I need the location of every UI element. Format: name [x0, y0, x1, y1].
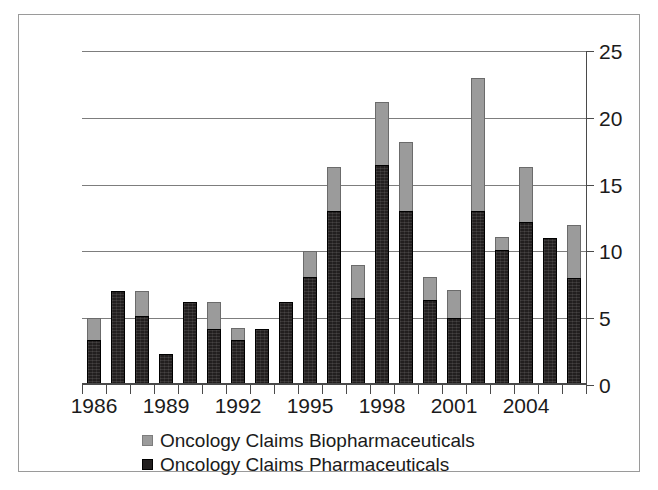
bar-segment-biopharmaceuticals [351, 265, 366, 298]
stacked-bar[interactable] [423, 277, 438, 385]
stacked-bar[interactable] [183, 302, 198, 385]
x-axis-tick [418, 385, 419, 394]
y-axis-tick [586, 51, 594, 52]
bar-segment-pharmaceuticals [135, 316, 150, 385]
bar-segment-biopharmaceuticals [231, 328, 246, 340]
bar-segment-pharmaceuticals [351, 298, 366, 385]
legend-label-biopharmaceuticals: Oncology Claims Biopharmaceuticals [160, 430, 475, 451]
bar-segment-biopharmaceuticals [135, 291, 150, 315]
bar-segment-pharmaceuticals [375, 165, 390, 385]
y-axis-label: 15 [599, 174, 622, 195]
bar-segment-pharmaceuticals [399, 211, 414, 385]
bar-segment-biopharmaceuticals [375, 102, 390, 165]
stacked-bar[interactable] [255, 329, 270, 385]
bar-segment-pharmaceuticals [111, 291, 126, 385]
bar-segment-biopharmaceuticals [87, 318, 102, 339]
x-axis-tick [274, 385, 275, 394]
bar-slot [442, 51, 466, 385]
x-axis-tick [346, 385, 347, 394]
x-axis-tick [202, 385, 203, 394]
x-axis-tick [514, 385, 515, 394]
bar-segment-biopharmaceuticals [303, 251, 318, 276]
stacked-bar[interactable] [351, 265, 366, 385]
stacked-bar[interactable] [399, 142, 414, 385]
bar-segment-biopharmaceuticals [327, 167, 342, 211]
bar-slot [322, 51, 346, 385]
x-axis-label: 1992 [215, 394, 262, 418]
stacked-bar[interactable] [87, 318, 102, 385]
bar-segment-pharmaceuticals [447, 318, 462, 385]
stacked-bar[interactable] [495, 237, 510, 385]
bar-slot [130, 51, 154, 385]
bar-slot [250, 51, 274, 385]
x-axis-tick [106, 385, 107, 394]
bar-slot [514, 51, 538, 385]
bar-slot [154, 51, 178, 385]
y-axis-tick [586, 385, 594, 386]
x-axis-tick [298, 385, 299, 394]
bar-slot [370, 51, 394, 385]
stacked-bar[interactable] [567, 225, 582, 385]
y-axis-line [586, 51, 587, 385]
x-axis-tick [586, 385, 587, 394]
stacked-bar[interactable] [327, 167, 342, 385]
y-axis-tick [586, 185, 594, 186]
y-axis-label: 10 [599, 241, 622, 262]
bar-slot [202, 51, 226, 385]
plot-area [82, 51, 586, 385]
stacked-bar[interactable] [375, 102, 390, 385]
bar-segment-pharmaceuticals [423, 300, 438, 386]
x-axis-label: 1998 [359, 394, 406, 418]
bar-segment-pharmaceuticals [279, 302, 294, 385]
legend-swatch-icon-biopharmaceuticals [142, 435, 153, 446]
bar-slot [106, 51, 130, 385]
x-axis-ticks [82, 385, 586, 394]
bar-segment-pharmaceuticals [255, 329, 270, 385]
stacked-bar[interactable] [519, 167, 534, 385]
stacked-bar[interactable] [303, 251, 318, 385]
bar-slot [490, 51, 514, 385]
x-axis-tick [538, 385, 539, 394]
stacked-bar[interactable] [159, 354, 174, 385]
x-axis-tick [466, 385, 467, 394]
legend: Oncology Claims Biopharmaceuticals Oncol… [142, 429, 475, 476]
legend-item-biopharmaceuticals: Oncology Claims Biopharmaceuticals [142, 429, 475, 452]
bar-segment-biopharmaceuticals [567, 225, 582, 278]
stacked-bar[interactable] [447, 290, 462, 385]
bar-slot [178, 51, 202, 385]
stacked-bar[interactable] [279, 302, 294, 385]
bar-segment-biopharmaceuticals [447, 290, 462, 318]
chart-figure: 0510152025 1986198919921995199820012004 … [0, 0, 658, 490]
x-axis-tick [322, 385, 323, 394]
bar-segment-biopharmaceuticals [399, 142, 414, 211]
x-axis-tick [250, 385, 251, 394]
bar-segment-biopharmaceuticals [471, 78, 486, 212]
x-axis-tick [370, 385, 371, 394]
bar-slot [346, 51, 370, 385]
bar-segment-biopharmaceuticals [207, 302, 222, 329]
x-axis-tick [154, 385, 155, 394]
x-axis-tick [394, 385, 395, 394]
bar-segment-pharmaceuticals [471, 211, 486, 385]
y-axis-tick [586, 118, 594, 119]
stacked-bar[interactable] [111, 291, 126, 385]
stacked-bar[interactable] [231, 328, 246, 385]
stacked-bar[interactable] [471, 78, 486, 385]
bar-segment-pharmaceuticals [327, 211, 342, 385]
stacked-bar[interactable] [135, 291, 150, 385]
bar-segment-biopharmaceuticals [519, 167, 534, 222]
bar-slot [538, 51, 562, 385]
y-axis-tick [586, 318, 594, 319]
x-axis-tick [442, 385, 443, 394]
x-axis-label: 1989 [143, 394, 190, 418]
stacked-bar[interactable] [543, 238, 558, 385]
bar-segment-pharmaceuticals [207, 329, 222, 385]
bar-group [82, 51, 586, 385]
stacked-bar[interactable] [207, 302, 222, 385]
x-axis-label: 1986 [71, 394, 118, 418]
bar-segment-pharmaceuticals [519, 222, 534, 385]
x-axis-tick [178, 385, 179, 394]
x-axis-label: 1995 [287, 394, 334, 418]
y-axis-tick [586, 251, 594, 252]
bar-segment-pharmaceuticals [159, 354, 174, 385]
